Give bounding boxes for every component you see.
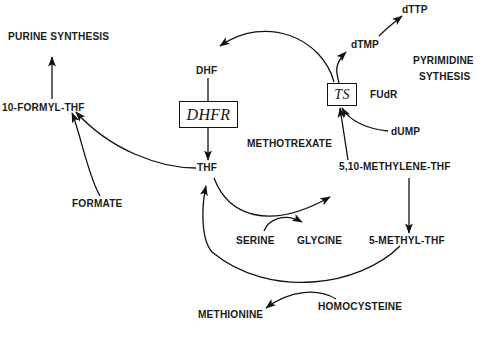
arrow-ts-to-dhf [220, 31, 334, 82]
label-5-methyl-thf: 5-METHYL-THF [369, 234, 445, 247]
arrow-serine-to-glycine [264, 217, 302, 231]
label-purine-synthesis: PURINE SYNTHESIS [8, 30, 109, 43]
arrow-ts-to-dtmp [337, 52, 346, 83]
label-methotrexate: METHOTREXATE [247, 137, 332, 150]
label-methionine: METHIONINE [198, 308, 263, 321]
label-fudr: FUdR [370, 88, 397, 101]
enzyme-label-ts: TS [334, 88, 349, 102]
label-dump: dUMP [391, 125, 420, 138]
arrow-thf-to-methylenethf [214, 178, 330, 216]
arrow-formate-to-formylthf [72, 113, 100, 196]
arrow-dtmp-to-dttp [379, 16, 402, 36]
arrow-thf-to-formylthf [76, 112, 196, 168]
label-10-formyl-thf: 10-FORMYL-THF [2, 101, 85, 114]
label-thf: THF [197, 161, 217, 174]
enzyme-box-dhfr: DHFR [179, 101, 238, 128]
label-glycine: GLYCINE [297, 234, 342, 247]
enzyme-box-ts: TS [327, 83, 357, 106]
label-dtmp: dTMP [351, 38, 379, 51]
arrow-dump-to-ts [342, 108, 388, 131]
label-dhf: DHF [196, 64, 217, 77]
arrow-methylenethf-to-ts [340, 108, 348, 160]
label-510-methylene-thf: 5,10-METHYLENE-THF [339, 160, 451, 173]
label-dttp: dTTP [402, 3, 428, 16]
label-sythesis: SYTHESIS [419, 70, 470, 83]
pathway-diagram: DHFR TS PURINE SYNTHESIS 10-FORMYL-THF F… [0, 0, 483, 338]
label-homocysteine: HOMOCYSTEINE [318, 300, 402, 313]
label-pyrimidine: PYRIMIDINE [413, 54, 474, 67]
label-formate: FORMATE [72, 197, 123, 210]
enzyme-label-dhfr: DHFR [187, 107, 231, 123]
label-serine: SERINE [236, 234, 275, 247]
